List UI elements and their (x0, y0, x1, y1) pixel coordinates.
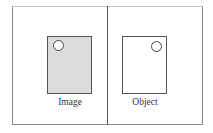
image-label: Image (40, 97, 100, 107)
center-divider (107, 6, 108, 125)
object-circle-icon (151, 41, 162, 52)
image-rectangle (47, 36, 92, 94)
object-label: Object (115, 97, 175, 107)
image-circle-icon (53, 40, 64, 51)
object-rectangle (122, 36, 167, 94)
